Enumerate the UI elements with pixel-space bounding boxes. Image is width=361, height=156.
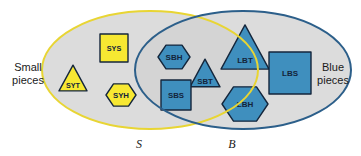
caption-blue-pieces: Blue pieces	[307, 61, 359, 87]
piece-label: SYS	[107, 44, 122, 53]
piece-sbs: SBS	[161, 80, 191, 110]
set-label-b: B	[228, 137, 236, 151]
piece-label: SBH	[166, 53, 183, 62]
venn-diagram-figure: SYTSYSSYHSBHSBTSBSLBTLBSLBH S B Small pi…	[0, 0, 361, 156]
caption-small-pieces: Small pieces	[2, 61, 54, 87]
caption-small-pieces-line2: pieces	[2, 74, 54, 87]
piece-lbs: LBS	[269, 52, 311, 94]
piece-sys: SYS	[100, 34, 128, 62]
piece-sbh: SBH	[158, 45, 190, 69]
set-label-s: S	[136, 137, 142, 151]
caption-blue-pieces-line1: Blue	[307, 61, 359, 74]
piece-label: LBS	[282, 69, 299, 78]
caption-blue-pieces-line2: pieces	[307, 74, 359, 87]
piece-syh: SYH	[106, 84, 136, 106]
piece-label: SBT	[197, 77, 213, 86]
piece-label: LBT	[237, 56, 253, 65]
caption-small-pieces-line1: Small	[2, 61, 54, 74]
piece-label: SYH	[113, 91, 129, 100]
piece-label: SBS	[168, 91, 184, 100]
piece-label: SYT	[66, 81, 81, 90]
